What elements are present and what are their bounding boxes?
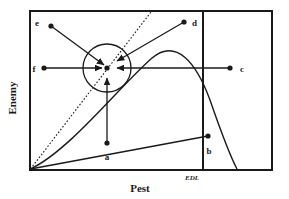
point-b-dot	[205, 133, 210, 138]
point-label-b: b	[206, 146, 211, 156]
vector-e	[51, 26, 104, 65]
pest-enemy-equilibrium-figure: e d f c a b EDL Pest Enemy	[0, 0, 289, 199]
y-axis-label: Enemy	[6, 81, 18, 115]
point-label-c: c	[240, 64, 244, 74]
point-label-f: f	[33, 64, 37, 74]
equilibrium-center-dot	[104, 65, 109, 70]
point-a-dot	[104, 140, 109, 145]
point-c-dot	[227, 65, 232, 70]
equilibrium-reference-line	[31, 12, 152, 169]
point-f-dot	[41, 65, 46, 70]
edl-label: EDL	[184, 174, 199, 182]
point-d-dot	[181, 19, 186, 24]
point-label-d: d	[192, 18, 197, 28]
point-e-dot	[48, 23, 53, 28]
descending-trajectory-line	[31, 136, 209, 169]
vector-d	[117, 22, 184, 61]
point-label-a: a	[105, 152, 110, 162]
x-axis-label: Pest	[130, 182, 150, 194]
point-label-e: e	[35, 18, 39, 28]
figure-canvas: e d f c a b EDL Pest Enemy	[0, 0, 289, 199]
